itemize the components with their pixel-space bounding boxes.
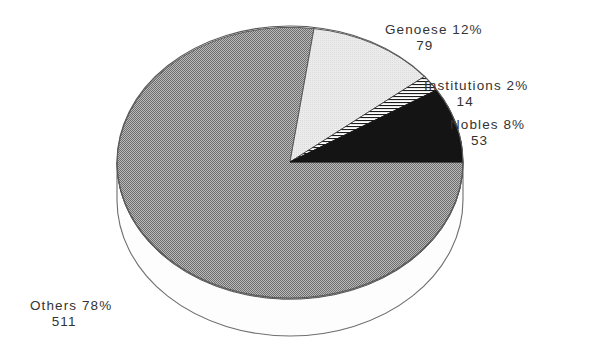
slice-label-genoese-value: 79 [385, 38, 483, 54]
slice-label-others-name: Others 78% [30, 298, 112, 314]
slice-label-nobles-value: 53 [450, 133, 525, 149]
slice-label-nobles-name: Nobles 8% [450, 117, 525, 133]
slice-label-nobles: Nobles 8% 53 [450, 117, 525, 149]
pie-chart: Genoese 12% 79 Institutions 2% 14 Nobles… [0, 0, 604, 364]
slice-label-genoese: Genoese 12% 79 [385, 22, 483, 54]
slice-label-institutions-name: Institutions 2% [424, 78, 528, 94]
slice-label-others: Others 78% 511 [30, 298, 112, 330]
slice-label-institutions: Institutions 2% 14 [424, 78, 528, 110]
slice-label-genoese-name: Genoese 12% [385, 22, 483, 38]
pie-top-face [117, 26, 463, 299]
slice-label-institutions-value: 14 [424, 94, 528, 110]
slice-label-others-value: 511 [30, 314, 112, 330]
